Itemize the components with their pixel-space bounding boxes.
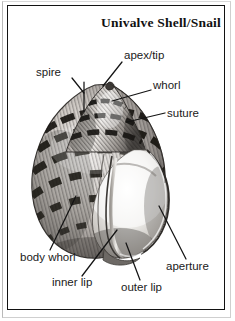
label-suture: suture	[167, 108, 199, 120]
label-body-whorl: body whorl	[20, 252, 76, 264]
leader-aperture	[159, 206, 186, 259]
label-inner-lip: inner lip	[52, 277, 92, 289]
label-spire: spire	[36, 67, 61, 79]
label-outer-lip: outer lip	[121, 282, 162, 294]
shell-body-group	[20, 78, 180, 273]
leader-apex-tip	[103, 62, 122, 86]
leader-spire-diagonal	[72, 78, 84, 93]
label-apex-tip: apex/tip	[124, 50, 164, 62]
figure-page: Univalve Shell/Snail	[0, 0, 235, 321]
label-whorl: whorl	[153, 80, 180, 92]
label-aperture: aperture	[166, 261, 209, 273]
shell-illustration	[0, 0, 235, 321]
